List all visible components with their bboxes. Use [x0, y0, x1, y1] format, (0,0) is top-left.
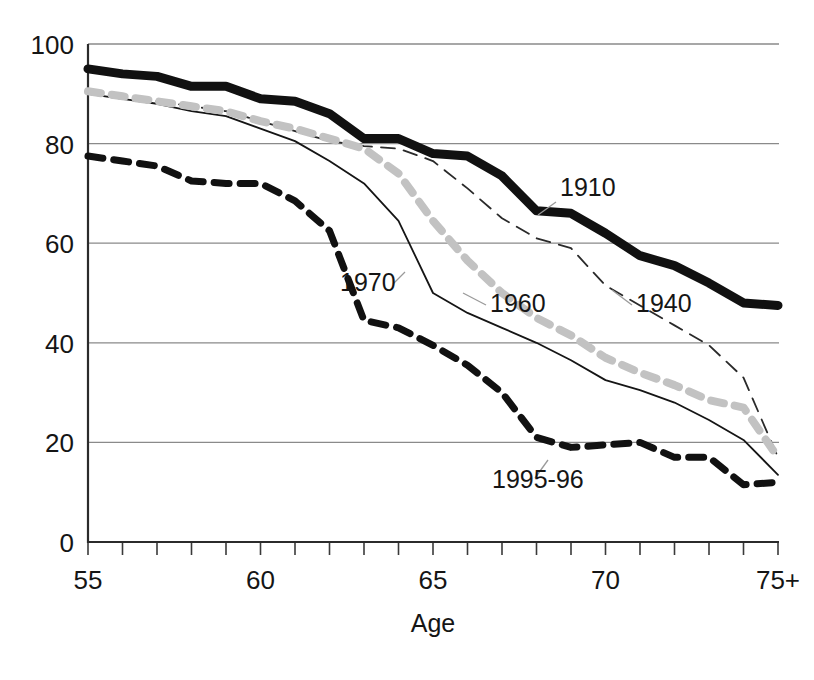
ytick-label-100: 100 [31, 30, 74, 60]
xtick-label-55: 55 [74, 565, 103, 595]
ytick-label-60: 60 [45, 229, 74, 259]
line-chart: 020406080100 5560657075+ 191019401960197… [0, 0, 814, 680]
ytick-label-0: 0 [60, 528, 74, 558]
xtick-label-75+: 75+ [756, 565, 800, 595]
xaxis-ticks-group [88, 542, 778, 555]
series-label-1995-96: 1995-96 [492, 465, 584, 493]
series-label-1960: 1960 [490, 289, 546, 317]
chart-background [0, 0, 814, 680]
ytick-label-20: 20 [45, 428, 74, 458]
xtick-label-65: 65 [419, 565, 448, 595]
xtick-label-70: 70 [591, 565, 620, 595]
chart-container: 020406080100 5560657075+ 191019401960197… [0, 0, 814, 680]
xtick-label-60: 60 [246, 565, 275, 595]
ytick-label-80: 80 [45, 130, 74, 160]
ytick-label-40: 40 [45, 329, 74, 359]
series-label-1910: 1910 [560, 173, 616, 201]
series-label-1970: 1970 [340, 268, 396, 296]
series-label-1940: 1940 [636, 289, 692, 317]
x-axis-title: Age [411, 609, 455, 637]
